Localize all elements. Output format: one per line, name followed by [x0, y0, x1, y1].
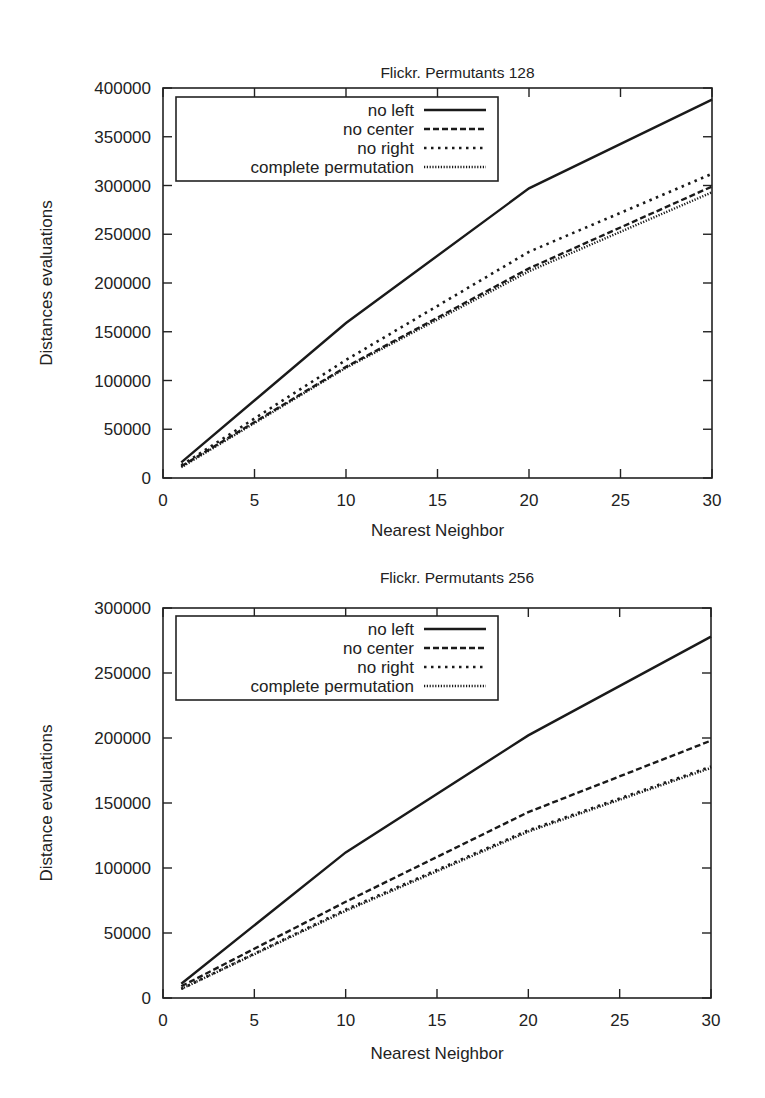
y-axis-label: Distances evaluations	[37, 200, 56, 365]
x-tick-label: 0	[158, 491, 167, 510]
x-tick-label: 30	[702, 1011, 721, 1030]
y-tick-label: 100000	[94, 372, 151, 391]
x-tick-label: 25	[610, 1011, 629, 1030]
legend-label: no center	[343, 120, 414, 139]
x-axis-label: Nearest Neighbor	[370, 1044, 504, 1063]
y-tick-label: 150000	[94, 323, 151, 342]
legend-label: no center	[343, 639, 414, 658]
y-tick-label: 100000	[94, 859, 151, 878]
x-tick-label: 15	[428, 491, 447, 510]
x-tick-label: 25	[611, 491, 630, 510]
x-tick-label: 10	[336, 1011, 355, 1030]
x-tick-label: 30	[703, 491, 722, 510]
y-tick-label: 350000	[94, 128, 151, 147]
x-axis-label: Nearest Neighbor	[371, 521, 505, 540]
y-axis-label: Distance evaluations	[37, 725, 56, 882]
y-tick-label: 50000	[104, 420, 151, 439]
x-tick-label: 0	[158, 1011, 167, 1030]
series-line-no-right	[181, 174, 712, 466]
y-tick-label: 0	[142, 989, 151, 1008]
series-line-complete-permutation	[181, 192, 712, 467]
chart-title: Flickr. Permutants 256	[380, 569, 534, 586]
chart-panel-1: Flickr. Permutants 128050000100000150000…	[37, 64, 721, 540]
y-tick-label: 50000	[104, 924, 151, 943]
x-tick-label: 15	[428, 1011, 447, 1030]
y-tick-label: 250000	[94, 225, 151, 244]
y-tick-label: 0	[142, 469, 151, 488]
x-tick-label: 5	[250, 491, 259, 510]
legend-label: complete permutation	[251, 677, 414, 696]
y-tick-label: 200000	[94, 274, 151, 293]
y-tick-label: 300000	[94, 599, 151, 618]
chart-panel-2: Flickr. Permutants 256050000100000150000…	[37, 569, 720, 1063]
y-tick-label: 300000	[94, 177, 151, 196]
series-line-no-right	[181, 767, 711, 989]
legend-label: no left	[368, 620, 415, 639]
chart-title: Flickr. Permutants 128	[380, 64, 534, 81]
x-tick-label: 5	[250, 1011, 259, 1030]
legend-label: no right	[357, 658, 414, 677]
series-line-no-center	[181, 741, 711, 987]
x-tick-label: 20	[520, 491, 539, 510]
legend-label: complete permutation	[251, 158, 414, 177]
y-tick-label: 250000	[94, 664, 151, 683]
figure-canvas: Flickr. Permutants 128050000100000150000…	[0, 0, 765, 1098]
x-tick-label: 20	[519, 1011, 538, 1030]
series-line-complete-permutation	[181, 768, 711, 989]
legend-label: no left	[368, 101, 415, 120]
y-tick-label: 150000	[94, 794, 151, 813]
y-tick-label: 400000	[94, 79, 151, 98]
x-tick-label: 10	[337, 491, 356, 510]
y-tick-label: 200000	[94, 729, 151, 748]
legend: no leftno centerno rightcomplete permuta…	[176, 97, 498, 181]
series-line-no-center	[181, 187, 712, 467]
legend-label: no right	[357, 139, 414, 158]
legend: no leftno centerno rightcomplete permuta…	[176, 616, 498, 700]
